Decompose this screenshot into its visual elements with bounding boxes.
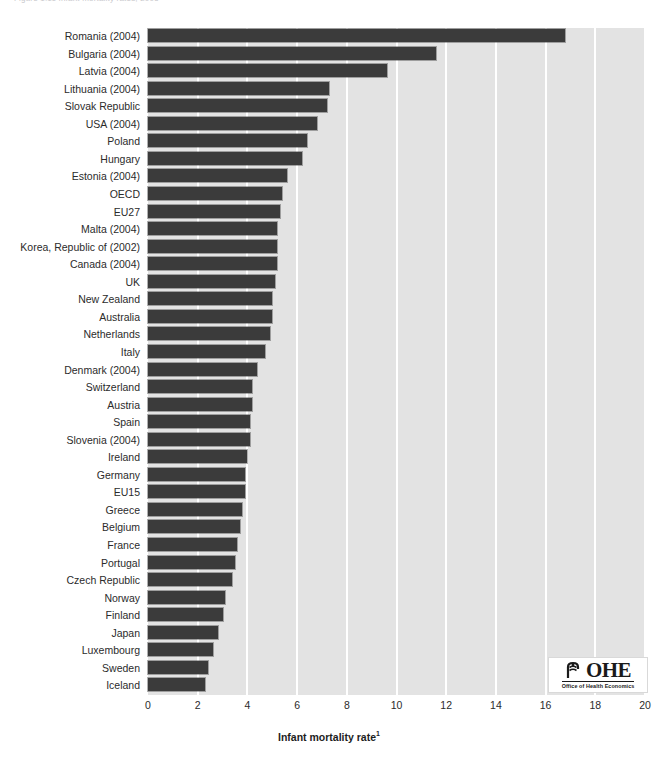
bar-row [148, 414, 645, 432]
bar [148, 380, 252, 393]
y-axis-label: Romania (2004) [0, 28, 144, 46]
bar [148, 310, 272, 323]
bar [148, 573, 232, 586]
ohe-logo-tagline: Office of Health Economics [562, 681, 635, 689]
y-axis-label: UK [0, 274, 144, 292]
y-axis-label: New Zealand [0, 291, 144, 309]
y-axis-label: Hungary [0, 151, 144, 169]
x-axis-tick-label: 10 [391, 699, 403, 711]
bar-row [148, 590, 645, 608]
bar [148, 117, 317, 130]
ohe-logo-letters: OHE [586, 661, 631, 680]
bar-row [148, 484, 645, 502]
y-axis-label: Iceland [0, 677, 144, 695]
bar [148, 538, 237, 551]
x-axis-tick-label: 18 [589, 699, 601, 711]
bar [148, 99, 327, 112]
y-axis-label: Austria [0, 397, 144, 415]
x-axis-tick-label: 6 [294, 699, 300, 711]
y-axis-label: Netherlands [0, 326, 144, 344]
y-axis-label: Australia [0, 309, 144, 327]
bar [148, 450, 247, 463]
bar-row [148, 432, 645, 450]
bar-row [148, 449, 645, 467]
bar-row [148, 326, 645, 344]
x-axis-title: Infant mortality rate1 [0, 730, 658, 743]
bar [148, 363, 257, 376]
y-axis-label: Switzerland [0, 379, 144, 397]
bar-row [148, 362, 645, 380]
y-axis-label: Belgium [0, 519, 144, 537]
bar [148, 82, 329, 95]
y-axis-label: Greece [0, 502, 144, 520]
y-axis-label: Norway [0, 590, 144, 608]
bar [148, 608, 223, 621]
bar-row [148, 519, 645, 537]
bar [148, 556, 235, 569]
bar [148, 345, 265, 358]
y-axis-label: Sweden [0, 660, 144, 678]
bar-row [148, 81, 645, 99]
y-axis-label: OECD [0, 186, 144, 204]
x-axis-tick-label: 12 [440, 699, 452, 711]
bar [148, 47, 436, 60]
bar [148, 152, 302, 165]
bar [148, 433, 250, 446]
bar-row [148, 256, 645, 274]
bar [148, 29, 565, 42]
bar [148, 134, 307, 147]
y-axis-label: Germany [0, 467, 144, 485]
x-axis-tick-label: 14 [490, 699, 502, 711]
y-axis-label: Luxembourg [0, 642, 144, 660]
bar-row [148, 344, 645, 362]
bar-row [148, 116, 645, 134]
bar-row [148, 28, 645, 46]
y-axis-label: EU15 [0, 484, 144, 502]
x-axis-tick-label: 16 [540, 699, 552, 711]
bar-row [148, 239, 645, 257]
bar-row [148, 168, 645, 186]
bar [148, 275, 275, 288]
y-axis-label: Czech Republic [0, 572, 144, 590]
bar-row [148, 625, 645, 643]
bar [148, 169, 287, 182]
bar-series [148, 28, 645, 695]
y-axis-label: EU27 [0, 204, 144, 222]
bar [148, 257, 277, 270]
bar-row [148, 98, 645, 116]
bar [148, 503, 242, 516]
bar [148, 661, 208, 674]
plot-area [148, 28, 645, 695]
bar-row [148, 397, 645, 415]
bar [148, 187, 282, 200]
bar-row [148, 204, 645, 222]
y-axis-label: Ireland [0, 449, 144, 467]
y-axis-label: Finland [0, 607, 144, 625]
y-axis-label: Slovenia (2004) [0, 432, 144, 450]
y-axis-label: Italy [0, 344, 144, 362]
y-axis-label: Malta (2004) [0, 221, 144, 239]
y-axis-label: Canada (2004) [0, 256, 144, 274]
x-axis-title-footnote: 1 [376, 730, 380, 737]
ohe-logo: OHE Office of Health Economics [548, 657, 648, 693]
bar-row [148, 291, 645, 309]
bar-row [148, 274, 645, 292]
bar [148, 468, 245, 481]
y-axis-label: Korea, Republic of (2002) [0, 239, 144, 257]
bar-row [148, 133, 645, 151]
bar [148, 678, 205, 691]
y-axis-label: Bulgaria (2004) [0, 46, 144, 64]
x-axis-tick-label: 4 [244, 699, 250, 711]
bar-row [148, 46, 645, 64]
x-axis-tick-label: 2 [195, 699, 201, 711]
x-axis-tick-label: 20 [639, 699, 651, 711]
y-axis-category-labels: Romania (2004)Bulgaria (2004)Latvia (200… [0, 28, 144, 695]
y-axis-label: USA (2004) [0, 116, 144, 134]
bar-row [148, 186, 645, 204]
bar-row [148, 379, 645, 397]
y-axis-label: Estonia (2004) [0, 168, 144, 186]
bar [148, 222, 277, 235]
figure-caption: Figure 1.11 Infant mortality rates, 2005 [14, 0, 434, 4]
y-axis-label: Japan [0, 625, 144, 643]
y-axis-label: Lithuania (2004) [0, 81, 144, 99]
